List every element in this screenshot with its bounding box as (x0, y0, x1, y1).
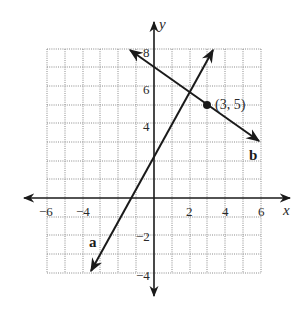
line-b-label: b (249, 147, 257, 163)
coordinate-plane: x y −6 −4 2 4 6 8 6 4 −2 −4 a b (3, 5) (0, 0, 304, 313)
y-tick-neg2: −2 (136, 229, 150, 244)
x-tick-neg6: −6 (39, 204, 53, 219)
y-tick-8: 8 (143, 45, 150, 60)
line-a-label: a (89, 234, 97, 250)
y-tick-4: 4 (143, 119, 150, 134)
y-tick-neg4: −4 (136, 268, 150, 283)
x-tick-4: 4 (222, 204, 229, 219)
x-tick-2: 2 (186, 204, 193, 219)
point-marker (203, 101, 211, 109)
y-tick-6: 6 (143, 82, 150, 97)
x-tick-neg4: −4 (76, 204, 90, 219)
x-axis-label: x (282, 202, 290, 218)
x-tick-6: 6 (258, 204, 265, 219)
point-label: (3, 5) (215, 97, 246, 113)
y-axis-label: y (157, 16, 166, 32)
